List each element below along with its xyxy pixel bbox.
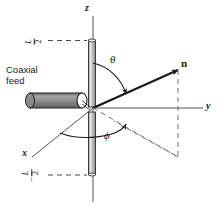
antenna-diagram-figure: z y x n θ ϕ Coaxial feed L 2 − L 2 xyxy=(0,0,221,210)
lower-length-numerator: L xyxy=(22,170,31,176)
x-axis-label: x xyxy=(22,148,27,158)
theta-angle-label: θ xyxy=(110,54,115,65)
phi-angle-label: ϕ xyxy=(104,130,110,141)
y-axis-label: y xyxy=(206,101,210,111)
dipole-upper-arm xyxy=(89,39,96,107)
lower-length-label: − L 2 xyxy=(22,170,40,183)
coaxial-feed-label-line1: Coaxial xyxy=(6,64,38,75)
upper-length-fraction: L 2 xyxy=(25,38,43,44)
upper-length-numerator: L xyxy=(25,38,34,44)
n-vector-label: n xyxy=(181,58,187,69)
coaxial-feed-label: Coaxial feed xyxy=(6,64,38,86)
projection-dashed-lines xyxy=(93,70,178,157)
upper-length-label: L 2 xyxy=(25,38,43,45)
coaxial-feed-cylinder xyxy=(26,93,91,110)
x-axis xyxy=(32,108,93,157)
z-axis-label: z xyxy=(85,3,89,13)
n-vector xyxy=(93,70,178,108)
lower-length-denominator: 2 xyxy=(32,170,41,176)
upper-length-denominator: 2 xyxy=(34,39,43,45)
theta-angle-arc xyxy=(93,63,126,94)
lower-length-fraction: L 2 xyxy=(22,170,40,176)
lower-length-sign: − xyxy=(26,177,36,182)
dipole-lower-arm xyxy=(89,112,96,176)
coaxial-feed-label-line2: feed xyxy=(6,75,38,86)
